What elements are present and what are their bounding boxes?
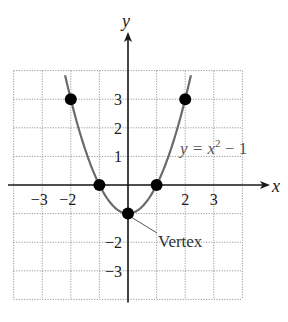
data-point	[151, 179, 163, 191]
equation-label: y = x2 − 1	[178, 137, 247, 158]
x-tick-label: 3	[210, 191, 218, 208]
vertex-pointer-line	[132, 218, 157, 233]
data-point	[179, 93, 191, 105]
x-axis-label: x	[271, 176, 280, 196]
y-tick-label: 3	[114, 91, 122, 108]
vertex-pointer	[132, 218, 157, 233]
y-tick-label: −3	[105, 263, 122, 280]
vertex-annotation: Vertex	[158, 232, 203, 251]
y-tick-label: −2	[105, 234, 122, 251]
parabola-chart: −3−223321−2−3 x y y = x2 − 1 Vertex	[0, 0, 288, 322]
y-tick-label: 2	[114, 120, 122, 137]
equation-tail: − 1	[221, 139, 248, 158]
x-tick-label: −2	[59, 191, 76, 208]
data-point	[93, 179, 105, 191]
x-tick-label: −3	[31, 191, 48, 208]
y-tick-label: 1	[114, 148, 122, 165]
data-point	[65, 93, 77, 105]
x-tick-label: 2	[181, 191, 189, 208]
axes	[8, 34, 268, 302]
y-axis-label: y	[120, 11, 130, 31]
equation-main: y = x	[178, 139, 216, 158]
data-point	[122, 208, 134, 220]
